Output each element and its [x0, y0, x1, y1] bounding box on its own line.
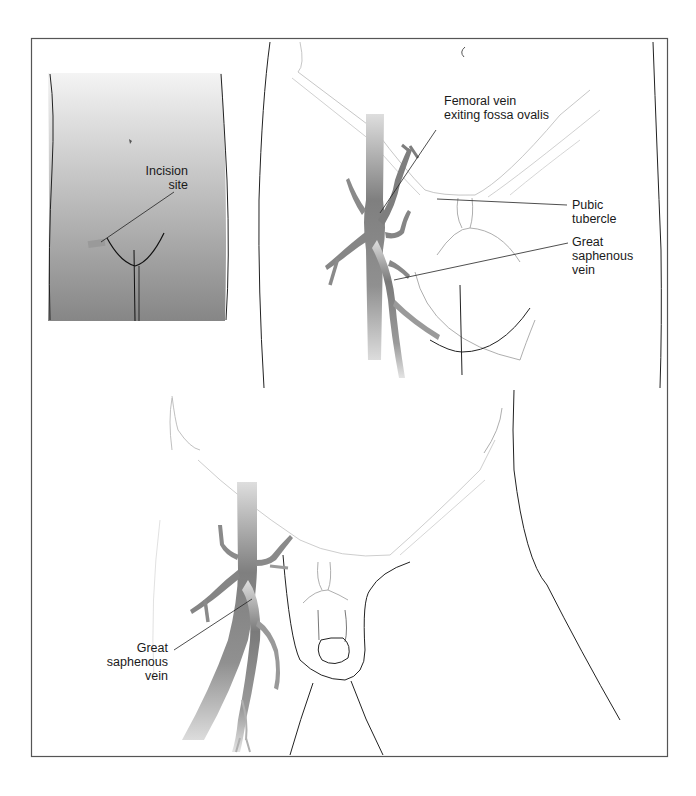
label-great-saphenous-lower: Great saphenous vein	[96, 641, 168, 683]
label-incision-site: Incision site	[128, 164, 188, 192]
label-femoral-vein: Femoral vein exiting fossa ovalis	[444, 94, 584, 122]
label-pubic-tubercle: Pubic tubercle	[572, 198, 652, 226]
label-great-saphenous-upper: Great saphenous vein	[572, 235, 652, 277]
anatomical-figure: Incision site Femoral vein exiting fossa…	[0, 0, 696, 796]
inset-panel	[48, 73, 228, 321]
